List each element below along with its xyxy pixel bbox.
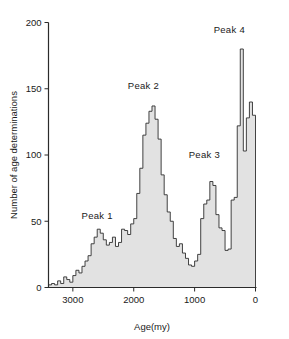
x-axis-title: Age(my): [134, 321, 170, 332]
y-tick-label: 0: [36, 282, 41, 293]
x-tick-label: 1000: [184, 294, 205, 305]
y-tick-label: 150: [26, 83, 42, 94]
y-tick-label: 200: [26, 17, 42, 28]
peak-label-2: Peak 2: [128, 80, 159, 91]
x-tick-label: 3000: [62, 294, 83, 305]
peak-label-1: Peak 1: [82, 210, 113, 221]
x-tick-label: 2000: [123, 294, 144, 305]
histogram-svg: 0501001502003000200010000 Peak 1Peak 2Pe…: [0, 0, 289, 339]
y-axis-title: Number of age determinations: [8, 91, 19, 219]
peak-label-4: Peak 4: [214, 24, 245, 35]
histogram-figure: 0501001502003000200010000 Peak 1Peak 2Pe…: [0, 0, 289, 339]
y-tick-label: 50: [31, 216, 42, 227]
peak-label-3: Peak 3: [189, 149, 220, 160]
y-tick-label: 100: [26, 149, 42, 160]
x-tick-label: 0: [253, 294, 258, 305]
